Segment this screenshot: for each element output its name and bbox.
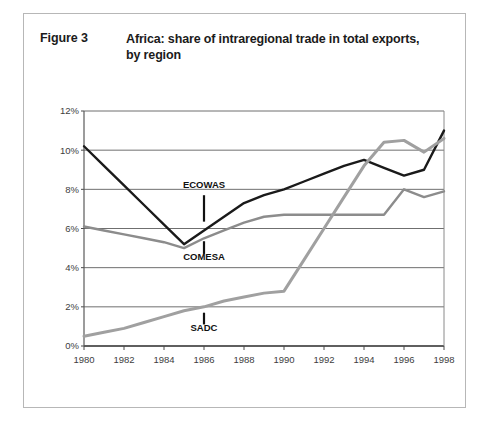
x-tick-label: 1996 (393, 354, 414, 365)
series-label-sadc: SADC (191, 322, 218, 333)
x-tick-label: 1982 (113, 354, 134, 365)
x-tick-label: 1984 (153, 354, 174, 365)
x-tick-label: 1980 (73, 354, 94, 365)
y-tick-label: 4% (65, 262, 79, 273)
x-tick-label: 1988 (233, 354, 254, 365)
x-tick-label: 1990 (273, 354, 294, 365)
y-tick-label: 12% (60, 105, 80, 116)
x-tick-label: 1998 (433, 354, 454, 365)
series-label-ecowas: ECOWAS (183, 179, 225, 190)
y-tick-label: 2% (65, 301, 79, 312)
line-chart: 0%2%4%6%8%10%12% 19801982198419861988199… (24, 14, 467, 409)
y-tick-label: 10% (60, 145, 80, 156)
x-tick-label: 1986 (193, 354, 214, 365)
x-axis-tick-labels: 1980198219841986198819901992199419961998 (73, 354, 454, 365)
grid-lines (84, 111, 444, 346)
chart-plot-area: 0%2%4%6%8%10%12% 19801982198419861988199… (24, 14, 467, 409)
series-label-comesa: COMESA (183, 251, 225, 262)
data-series-lines (84, 131, 444, 337)
y-tick-label: 6% (65, 223, 79, 234)
y-axis-tick-labels: 0%2%4%6%8%10%12% (60, 105, 84, 351)
x-tick-label: 1994 (353, 354, 374, 365)
y-tick-label: 8% (65, 184, 79, 195)
x-tick-label: 1992 (313, 354, 334, 365)
series-line-ecowas (84, 131, 444, 245)
y-tick-label: 0% (65, 340, 79, 351)
figure-frame: Figure 3 Africa: share of intraregional … (23, 13, 466, 408)
